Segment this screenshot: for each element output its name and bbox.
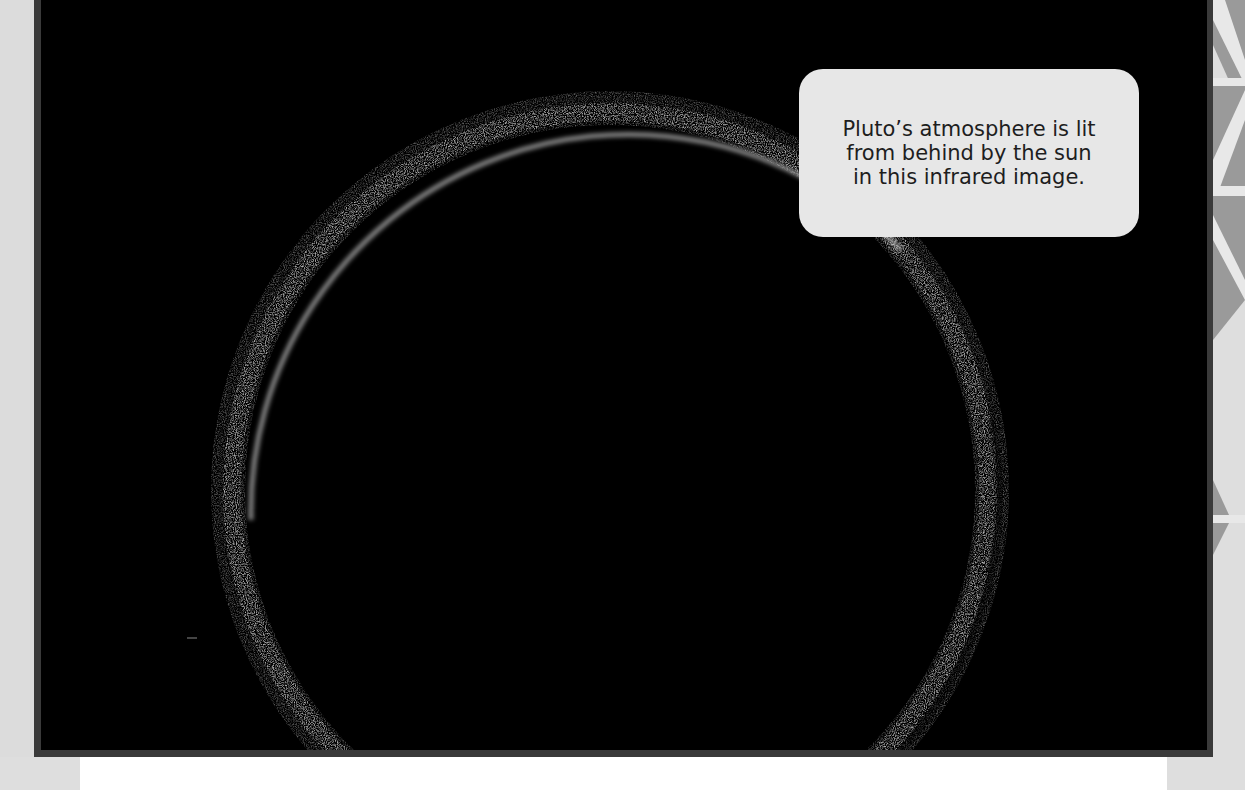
image-caption-box: Pluto’s atmosphere is lit from behind by…: [799, 69, 1139, 237]
page-text-area: [80, 757, 1167, 790]
photo-frame: Pluto’s atmosphere is lit from behind by…: [34, 0, 1213, 757]
caption-line: from behind by the sun: [819, 141, 1119, 165]
page-margin-left: [0, 0, 34, 790]
page-margin-bottom-left: [0, 757, 80, 790]
caption-text: Pluto’s atmosphere is lit from behind by…: [819, 117, 1119, 189]
decorative-chevron-strip: [1213, 0, 1245, 790]
caption-line: Pluto’s atmosphere is lit: [819, 117, 1119, 141]
chevron-pattern-icon: [1213, 0, 1245, 790]
caption-line: in this infrared image.: [819, 165, 1119, 189]
pluto-infrared-photo: Pluto’s atmosphere is lit from behind by…: [41, 0, 1207, 750]
